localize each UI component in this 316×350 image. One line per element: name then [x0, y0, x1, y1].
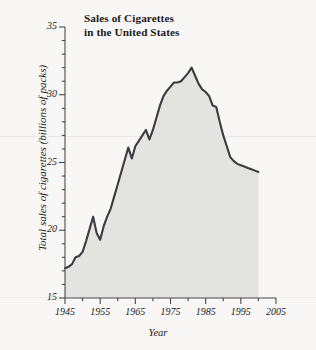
- x-tick-label: 1975: [151, 306, 191, 317]
- x-tick-label: 1985: [186, 306, 226, 317]
- x-tick-label: 2005: [256, 306, 296, 317]
- y-tick-label: 25: [27, 156, 57, 167]
- chart-title-line-2: in the United States: [84, 26, 180, 38]
- x-axis-title: Year: [0, 327, 316, 338]
- y-tick-label: 15: [27, 291, 57, 302]
- x-tick-label: 1995: [221, 306, 261, 317]
- chart-figure: Sales of Cigarettesin the United States …: [0, 0, 316, 350]
- y-tick-label: 20: [27, 223, 57, 234]
- plot-area: [65, 68, 258, 298]
- chart-title: Sales of Cigarettesin the United States: [84, 12, 180, 39]
- x-tick-label: 1955: [80, 306, 120, 317]
- y-tick-label: 30: [27, 88, 57, 99]
- chart-title-line-1: Sales of Cigarettes: [84, 12, 174, 24]
- x-tick-label: 1965: [115, 306, 155, 317]
- y-tick-label: 35: [27, 20, 57, 31]
- x-tick-label: 1945: [45, 306, 85, 317]
